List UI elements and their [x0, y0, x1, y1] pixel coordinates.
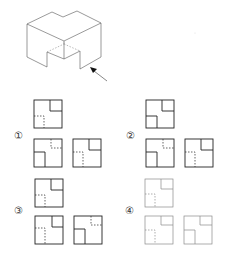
option-2-label: ② [126, 130, 135, 141]
figure-canvas: ① ② ③ [0, 0, 230, 270]
isometric-block [27, 11, 101, 69]
option-4[interactable] [145, 179, 212, 244]
option-4-label: ④ [125, 205, 134, 216]
view-direction-arrow [90, 67, 107, 81]
stray-dot [194, 32, 195, 33]
option-3-label: ③ [14, 205, 23, 216]
option-1[interactable] [34, 100, 101, 167]
option-2[interactable] [146, 100, 213, 167]
option-3[interactable] [35, 179, 102, 244]
option-1-label: ① [14, 130, 23, 141]
